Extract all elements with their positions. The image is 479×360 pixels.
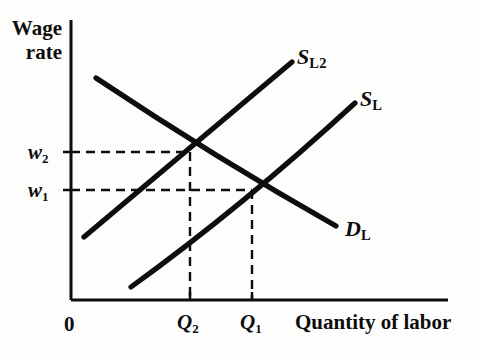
y-tick-label-w1: w1 (28, 180, 49, 201)
x-tick-label-q1-sub: 1 (255, 321, 262, 336)
x-tick-label-q1: Q1 (240, 312, 262, 333)
y-tick-label-w2: w2 (28, 142, 49, 163)
x-axis-title: Quantity of labor (295, 312, 451, 333)
curve-label-SL-base: S (360, 86, 372, 111)
curve-label-DL-sub: L (361, 227, 371, 243)
curve-label-SL: SL (360, 88, 382, 110)
y-tick-label-w2-sub: 2 (42, 151, 49, 166)
curve-label-SL-sub: L (372, 97, 382, 113)
curve-label-DL: DL (345, 218, 371, 240)
x-tick-label-q2-base: Q (177, 310, 192, 334)
curve-label-DL-base: D (345, 216, 361, 241)
x-tick-label-q2-sub: 2 (192, 321, 199, 336)
supply-curve-SL (131, 103, 355, 287)
origin-label: 0 (64, 314, 75, 335)
curve-label-SL2-sub: L2 (309, 55, 327, 71)
x-tick-label-q2: Q2 (177, 312, 199, 333)
y-tick-label-w1-base: w (28, 178, 42, 202)
y-axis-title-line2: rate (0, 42, 62, 63)
curve-label-SL2-base: S (297, 44, 309, 69)
y-tick-label-w1-sub: 1 (42, 189, 49, 204)
y-axis-title-line1: Wage (0, 18, 62, 39)
x-tick-label-q1-base: Q (240, 310, 255, 334)
diagram-canvas (0, 0, 479, 360)
curve-label-SL2: SL2 (297, 46, 327, 68)
y-tick-label-w2-base: w (28, 140, 42, 164)
labor-market-diagram: Wage rate w2 w1 0 Q2 Q1 Quantity of labo… (0, 0, 479, 360)
